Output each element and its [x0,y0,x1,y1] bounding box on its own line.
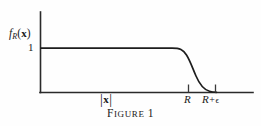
figure-container: fR(x) 1 |x| R R+ϵ FIGURE 1 [0,0,261,126]
x-axis-label-right-bar: | [109,92,112,107]
x-tick-label-R-plus-epsilon: R+ϵ [202,94,219,105]
figure-caption: FIGURE 1 [0,107,261,119]
caption-rest-letters: IGURE [114,109,145,119]
y-tick-label-one: 1 [28,42,34,53]
y-axis-label-close-paren: ) [27,27,31,39]
x-tick-label-R: R [184,94,191,105]
x-tick-label-epsilon: ϵ [215,95,218,105]
caption-number: 1 [148,107,154,119]
y-axis-label: fR(x) [9,28,30,41]
x-tick-label-R-base: R [202,93,209,105]
caption-first-letter: F [107,107,114,119]
cutoff-function-curve [41,48,217,92]
x-axis-label: |x| [100,93,113,107]
